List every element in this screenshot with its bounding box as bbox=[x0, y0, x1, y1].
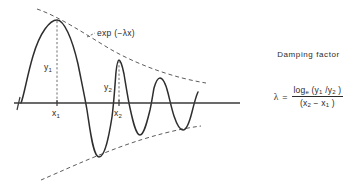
envelope-label-leader bbox=[87, 33, 95, 37]
equals-sign: = bbox=[282, 92, 287, 102]
log-text: log bbox=[294, 85, 306, 95]
label-y1: y1 bbox=[44, 62, 53, 73]
upper-envelope-curve bbox=[37, 9, 206, 83]
label-x1: x1 bbox=[52, 108, 61, 119]
label-x2-sub: 2 bbox=[119, 113, 123, 119]
figure-root: exp (−λx) y1 y2 x1 x2 Damping factor λ =… bbox=[0, 0, 361, 182]
label-x2: x2 bbox=[114, 108, 123, 119]
fraction: loge (y1 /y2 ) (x2 − x1 ) bbox=[292, 85, 344, 108]
numer-open: (y bbox=[309, 85, 319, 95]
fraction-numerator: loge (y1 /y2 ) bbox=[292, 85, 344, 96]
label-y1-sub: 1 bbox=[49, 67, 53, 73]
damping-factor-caption: Damping factor bbox=[256, 50, 361, 59]
damping-factor-equation: λ = loge (y1 /y2 ) (x2 − x1 ) bbox=[256, 85, 361, 108]
label-x1-sub: 1 bbox=[57, 113, 61, 119]
envelope-label: exp (−λx) bbox=[97, 28, 135, 38]
numer-close: ) bbox=[336, 85, 342, 95]
lower-envelope-curve bbox=[41, 126, 201, 180]
label-y2: y2 bbox=[104, 82, 113, 93]
lambda-symbol: λ bbox=[274, 92, 279, 102]
formula-panel: Damping factor λ = loge (y1 /y2 ) (x2 − … bbox=[256, 50, 361, 108]
numer-slash: /y bbox=[323, 85, 333, 95]
denom-minus: − x bbox=[311, 98, 326, 108]
denom-close: ) bbox=[329, 98, 335, 108]
label-y2-sub: 2 bbox=[109, 87, 113, 93]
fraction-denominator: (x2 − x1 ) bbox=[298, 97, 337, 108]
